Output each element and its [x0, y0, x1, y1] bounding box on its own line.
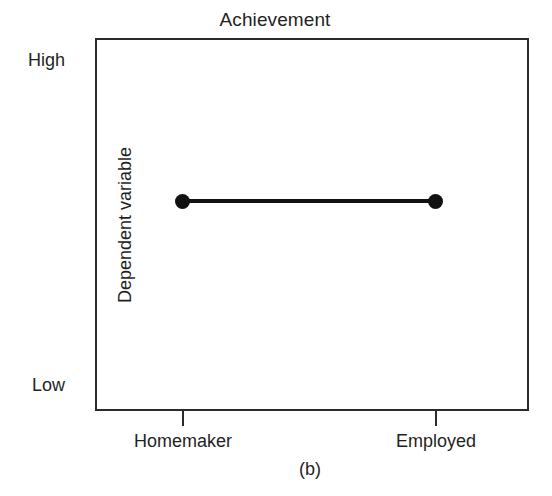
plot-area: Dependent variable High Low Homemaker Em…	[95, 38, 529, 411]
x-axis-tick-label-employed: Employed	[326, 430, 546, 452]
x-axis-tick-homemaker	[182, 411, 184, 426]
series-line-achievement	[182, 199, 435, 203]
y-axis-tick-label-high: High	[0, 50, 65, 70]
chart-title: Achievement	[0, 8, 552, 32]
data-point-employed	[428, 194, 443, 209]
figure-caption: (b)	[0, 458, 552, 480]
y-axis-tick-label-low: Low	[0, 375, 65, 395]
figure-caption-text: (b)	[299, 458, 321, 480]
x-axis-tick-label-homemaker: Homemaker	[73, 430, 293, 452]
x-axis-tick-employed	[435, 411, 437, 426]
chart-title-text: Achievement	[220, 8, 331, 32]
figure-panel-b: Achievement Dependent variable High Low …	[0, 0, 552, 496]
data-point-homemaker	[175, 194, 190, 209]
y-axis-title: Dependent variable	[115, 85, 135, 365]
